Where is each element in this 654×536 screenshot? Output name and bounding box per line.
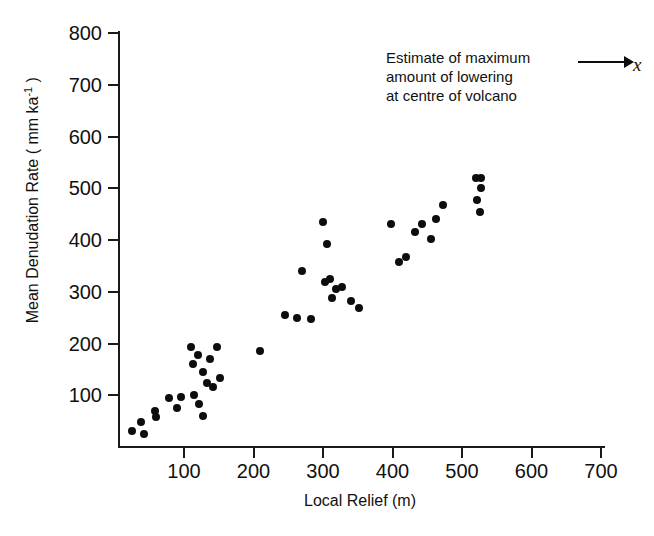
y-axis-tick-label: 200 (44, 334, 102, 354)
data-point (298, 267, 306, 275)
x-axis-tick-label: 200 (219, 461, 289, 481)
data-point (476, 208, 484, 216)
x-axis-tick-label: 300 (288, 461, 358, 481)
data-point (195, 400, 203, 408)
x-axis-tick (392, 447, 394, 458)
x-axis-tick (600, 447, 602, 458)
data-point (194, 351, 202, 359)
data-point (387, 220, 395, 228)
data-point (477, 174, 485, 182)
data-point (190, 391, 198, 399)
x-axis-tick (461, 447, 463, 458)
data-point (338, 283, 346, 291)
data-point (216, 374, 224, 382)
data-point (199, 368, 207, 376)
data-point (128, 427, 136, 435)
data-point (328, 294, 336, 302)
y-axis-tick-label: 300 (44, 282, 102, 302)
data-point (355, 304, 363, 312)
y-axis-title-exponent: -1 (22, 87, 34, 97)
y-axis-title-prefix: Mean Denudation Rate ( mm ka (24, 97, 41, 324)
x-axis-tick-label: 400 (358, 461, 428, 481)
x-axis-tick (322, 447, 324, 458)
y-axis-tick-label: 400 (44, 230, 102, 250)
data-point (473, 196, 481, 204)
data-point (189, 360, 197, 368)
data-point (427, 235, 435, 243)
data-point (281, 311, 289, 319)
data-point (199, 412, 207, 420)
data-point (187, 343, 195, 351)
data-point (173, 404, 181, 412)
y-axis-title: Mean Denudation Rate ( mm ka-1 ) (22, 30, 42, 370)
y-axis-tick-label: 800 (44, 23, 102, 43)
data-point (323, 240, 331, 248)
data-point (209, 383, 217, 391)
data-point (411, 228, 419, 236)
y-axis-title-suffix: ) (24, 77, 41, 87)
data-point (140, 430, 148, 438)
data-point (477, 184, 485, 192)
y-axis-tick-label: 500 (44, 178, 102, 198)
data-point (137, 418, 145, 426)
annotation-line-1: Estimate of maximum (386, 48, 530, 67)
scatter-plot-figure: 100200300400500600700800 100200300400500… (0, 0, 654, 536)
plot-data-area (118, 32, 604, 447)
x-axis-tick (183, 447, 185, 458)
data-point (165, 394, 173, 402)
data-point (177, 393, 185, 401)
data-point (307, 315, 315, 323)
x-axis-tick (253, 447, 255, 458)
y-axis-tick-label: 100 (44, 385, 102, 405)
data-point (347, 297, 355, 305)
x-axis-tick (531, 447, 533, 458)
data-point (206, 355, 214, 363)
data-point (213, 343, 221, 351)
data-point (293, 314, 301, 322)
max-lowering-marker: x (633, 55, 641, 74)
x-axis-tick-label: 600 (497, 461, 567, 481)
annotation-line-2: amount of lowering (386, 67, 530, 86)
data-point (432, 215, 440, 223)
data-point (256, 347, 264, 355)
annotation-text: Estimate of maximum amount of lowering a… (386, 48, 530, 105)
y-axis-title-wrapper: Mean Denudation Rate ( mm ka-1 ) (0, 0, 40, 460)
data-point (418, 220, 426, 228)
data-point (152, 413, 160, 421)
y-axis-tick-label: 700 (44, 75, 102, 95)
x-axis-tick-label: 700 (566, 461, 636, 481)
data-point (319, 218, 327, 226)
x-axis-tick-label: 500 (427, 461, 497, 481)
x-axis-title: Local Relief (m) (180, 492, 540, 510)
annotation-arrow-shaft (578, 61, 626, 63)
data-point (326, 275, 334, 283)
y-axis-tick-label: 600 (44, 127, 102, 147)
data-point (402, 253, 410, 261)
annotation-line-3: at centre of volcano (386, 86, 530, 105)
data-point (439, 201, 447, 209)
x-axis-tick-label: 100 (149, 461, 219, 481)
